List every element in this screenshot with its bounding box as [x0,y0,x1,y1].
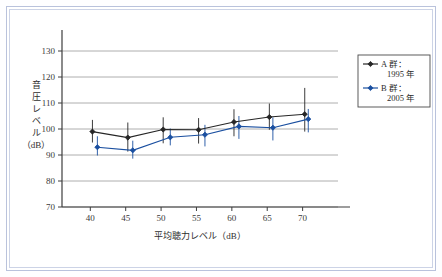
data-point-marker [231,119,236,124]
y-tick-label: 120 [42,72,56,82]
y-axis-ticks: 708090100110120130 [42,46,63,212]
data-point-marker [306,117,311,122]
y-tick-label: 70 [46,202,56,212]
x-tick-label: 40 [86,213,96,223]
y-axis-title-char: ベ [32,116,41,126]
x-tick-label: 45 [121,213,131,223]
data-point-marker [90,129,95,134]
series-b-markers [95,117,311,153]
y-axis-title-unit: （dB） [22,140,51,150]
y-tick-label: 130 [42,46,56,56]
legend-item-label-line1: B 群： [381,83,407,93]
x-tick-label: 50 [157,213,167,223]
chart-legend: A 群：1995 年B 群：2005 年 [358,55,430,107]
y-axis-title-char: レ [32,104,41,114]
chart-figure: 708090100110120130 40455055606570 音圧レベル（… [0,0,442,277]
data-point-marker [236,124,241,129]
legend-item-label-line2: 1995 年 [387,69,415,79]
data-point-marker [95,145,100,150]
x-axis-ticks: 40455055606570 [86,207,308,223]
x-axis-title: 平均聴力レベル（dB） [154,230,246,241]
x-tick-label: 60 [227,213,237,223]
data-point-marker [130,148,135,153]
legend-item-label-line1: A 群： [381,59,407,69]
y-tick-label: 100 [42,124,56,134]
y-axis-title-char: ル [32,128,41,138]
y-axis-title: 音圧レベル（dB） [22,79,51,150]
data-point-marker [270,125,275,130]
data-point-marker [125,135,130,140]
chart-svg: 708090100110120130 40455055606570 音圧レベル（… [0,0,442,277]
y-tick-label: 90 [46,150,56,160]
data-point-marker [267,114,272,119]
y-tick-label: 80 [46,176,56,186]
plot-area-wrapper: 708090100110120130 40455055606570 音圧レベル（… [0,0,442,277]
x-tick-label: 65 [263,213,273,223]
y-tick-label: 110 [42,98,56,108]
data-point-marker [196,127,201,132]
y-axis-title-char: 圧 [32,92,41,102]
data-point-marker [161,127,166,132]
data-point-marker [202,132,207,137]
x-tick-label: 55 [192,213,202,223]
data-point-marker [168,135,173,140]
y-axis-title-char: 音 [32,79,41,90]
x-tick-label: 70 [298,213,308,223]
data-point-marker [302,112,307,117]
legend-item-label-line2: 2005 年 [387,93,415,103]
